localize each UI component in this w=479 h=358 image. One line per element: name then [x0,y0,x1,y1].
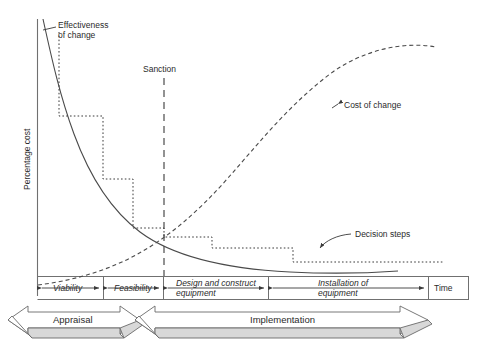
y-axis-label: Percentage cost [22,129,32,190]
curve-cost-of-change [38,45,436,285]
curve-decision-steps [59,32,443,262]
phase-label-viability: Viability [53,283,82,293]
annotation-cost-of-change: Cost of change [344,100,401,110]
phase-label-installation-line2: equipment [318,288,358,298]
phase-label-installation-line1: Installation of [318,278,368,288]
stage-label-appraisal: Appraisal [53,315,93,325]
annotation-effectiveness-line2: of change [58,30,95,40]
phase-label-feasibility: Feasibility [114,283,152,293]
annotation-decision-steps: Decision steps [355,229,410,239]
phase-label-design-line2: equipment [176,288,216,298]
figure-diagram-project-change-cost: Percentage cost Effectiveness of change … [0,0,479,358]
x-axis-label-time: Time [434,283,453,293]
leader-decision-steps [320,234,351,248]
diagram-canvas [0,0,479,358]
stage-label-implementation: Implementation [250,315,315,325]
phase-label-design-line1: Design and construct [176,278,256,288]
annotation-sanction: Sanction [143,64,176,74]
leader-cost-of-change [332,104,338,108]
annotation-effectiveness-line1: Effectiveness [58,20,108,30]
